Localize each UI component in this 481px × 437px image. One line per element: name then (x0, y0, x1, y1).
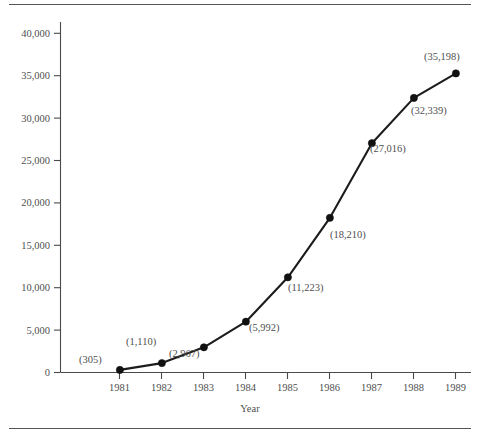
y-tick-label-40000: 40,000 (21, 28, 50, 39)
x-tick-label-1982: 1982 (151, 382, 172, 393)
data-point-label-1981: (305) (79, 354, 102, 366)
data-markers (116, 70, 459, 374)
x-tick-label-1989: 1989 (445, 382, 466, 393)
data-series-line (120, 73, 456, 370)
y-tick-label-10000: 10,000 (21, 282, 50, 293)
figure-container: 0 5,000 10,000 15,000 20,000 25,000 30,0… (0, 0, 481, 437)
x-tick-label-1988: 1988 (403, 382, 424, 393)
data-point-label-1986: (18,210) (330, 229, 366, 241)
x-tick-label-1981: 1981 (109, 382, 130, 393)
y-tick-label-15000: 15,000 (21, 240, 50, 251)
y-tick-label-30000: 30,000 (21, 113, 50, 124)
data-point-label-1987: (27,016) (370, 143, 406, 155)
y-tick-label-0: 0 (45, 367, 50, 378)
y-tick-label-5000: 5,000 (26, 325, 50, 336)
y-tick-group (54, 33, 61, 372)
x-tick-group (120, 373, 456, 380)
data-point-label-1989: (35,198) (424, 51, 460, 63)
x-tick-labels: 1981 1982 1983 1984 1985 1986 1987 1988 … (109, 382, 466, 393)
x-axis-title: Year (240, 403, 260, 414)
y-tick-label-20000: 20,000 (21, 197, 50, 208)
x-tick-label-1986: 1986 (319, 382, 340, 393)
data-point-1983[interactable] (200, 344, 207, 351)
data-point-label-1984: (5,992) (249, 322, 280, 334)
data-point-label-1983: (2,967) (169, 348, 200, 360)
x-tick-label-1984: 1984 (235, 382, 257, 393)
data-point-label-1988: (32,339) (411, 105, 447, 117)
data-point-label-1985: (11,223) (288, 282, 324, 294)
y-tick-label-25000: 25,000 (21, 155, 50, 166)
data-point-label-1982: (1,110) (126, 336, 157, 348)
x-tick-label-1987: 1987 (361, 382, 382, 393)
data-point-1986[interactable] (326, 214, 333, 221)
data-point-1985[interactable] (284, 274, 291, 281)
bottom-horizontal-rule (9, 428, 471, 429)
x-tick-label-1985: 1985 (277, 382, 298, 393)
data-point-1981[interactable] (116, 366, 123, 373)
y-tick-labels: 0 5,000 10,000 15,000 20,000 25,000 30,0… (21, 28, 50, 378)
data-point-1982[interactable] (158, 360, 165, 367)
x-tick-label-1983: 1983 (193, 382, 214, 393)
data-point-labels: (305) (1,110) (2,967) (5,992) (11,223) (… (79, 51, 460, 366)
data-point-1989[interactable] (452, 70, 459, 77)
y-tick-label-35000: 35,000 (21, 70, 50, 81)
line-chart: 0 5,000 10,000 15,000 20,000 25,000 30,0… (0, 0, 481, 437)
data-point-1988[interactable] (410, 94, 417, 101)
